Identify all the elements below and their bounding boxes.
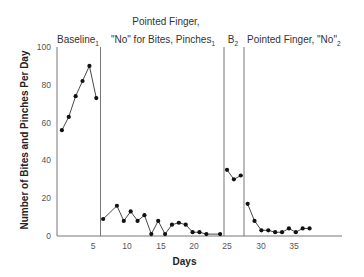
data-point [218,232,222,236]
data-point [280,230,284,234]
data-point [87,64,91,68]
data-point [60,128,64,132]
data-point [94,96,98,100]
data-point [135,219,139,223]
y-tick-label: 20 [42,193,52,203]
x-tick-label: 10 [122,241,132,251]
x-tick-label: 30 [256,241,266,251]
data-point [129,209,133,213]
data-point [142,213,146,217]
y-tick-label: 100 [37,42,51,52]
y-tick-label: 80 [42,80,52,90]
data-point [246,202,250,206]
series-line [103,206,220,234]
y-tick-label: 0 [46,231,51,241]
series-line [62,66,96,130]
axes: 0204060801005101520253035DaysNumber of B… [19,42,342,267]
phase-change-lines [101,47,245,236]
data-point [197,230,201,234]
data-point [156,219,160,223]
data-point [239,173,243,177]
data-point [74,94,78,98]
x-tick-label: 35 [289,241,299,251]
phase-label: Pointed Finger, [132,16,199,27]
x-axis-title: Days [173,256,197,267]
data-point [301,226,305,230]
data-point [170,223,174,227]
phase-label: "No" for Bites, Pinches1 [111,34,215,47]
phase-labels: Baseline1Pointed Finger,"No" for Bites, … [57,16,341,47]
data-point [232,177,236,181]
multiple-baseline-chart: 0204060801005101520253035DaysNumber of B… [0,0,364,277]
data-point [80,79,84,83]
phase-label: Pointed Finger, "No"2 [247,34,341,47]
data-point [67,115,71,119]
phase-label: B2 [228,34,239,47]
data-point [273,230,277,234]
x-tick-label: 25 [222,241,232,251]
x-tick-label: 20 [189,241,199,251]
data-point [307,226,311,230]
data-point [204,232,208,236]
y-axis-title: Number of Bites and Pinches Per Day [19,50,30,229]
data-point [252,219,256,223]
phase-label: Baseline1 [57,34,99,47]
data-point [184,223,188,227]
data-point [115,204,119,208]
data-point [266,228,270,232]
data-point [294,230,298,234]
data-point [191,230,195,234]
data-point [122,219,126,223]
data-point [259,228,263,232]
data-point [225,168,229,172]
x-tick-label: 5 [91,241,96,251]
y-tick-label: 40 [42,155,52,165]
y-tick-label: 60 [42,118,52,128]
x-tick-label: 15 [156,241,166,251]
series-line [248,204,310,232]
data-series [60,64,312,236]
data-point [101,217,105,221]
data-point [287,226,291,230]
data-point [163,232,167,236]
data-point [177,221,181,225]
data-point [149,232,153,236]
